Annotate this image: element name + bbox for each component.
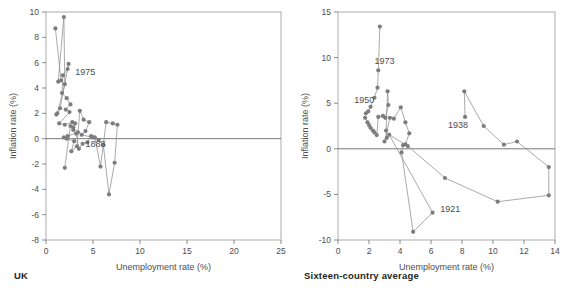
y-tick-label: -4 <box>31 184 39 194</box>
x-tick-label: 8 <box>460 246 465 256</box>
data-point <box>80 133 84 137</box>
data-point <box>66 62 70 66</box>
x-tick-label: 6 <box>429 246 434 256</box>
x-tick-label: 2 <box>367 246 372 256</box>
data-point <box>65 96 69 100</box>
data-point <box>401 143 405 147</box>
data-point <box>107 192 111 196</box>
data-point <box>63 123 67 127</box>
panel-sixteen-country: 02468101214-10-5051015Unemployment rate … <box>290 0 580 293</box>
x-tick-label: 0 <box>44 246 49 256</box>
data-point <box>384 128 388 132</box>
y-tick-label: 10 <box>322 53 332 63</box>
data-point <box>54 113 58 117</box>
data-point <box>81 142 85 146</box>
data-point <box>82 118 86 122</box>
data-point <box>69 149 73 153</box>
data-point <box>68 124 72 128</box>
data-point <box>53 26 57 30</box>
x-tick-label: 15 <box>182 246 192 256</box>
y-tick-label: 4 <box>34 83 39 93</box>
data-point <box>57 121 61 125</box>
data-point <box>388 116 392 120</box>
data-point <box>403 120 407 124</box>
data-point <box>387 133 391 137</box>
y-tick-label: -8 <box>31 235 39 245</box>
data-point <box>78 109 82 113</box>
data-point <box>376 115 380 119</box>
data-point <box>73 121 77 125</box>
point-label-1938: 1938 <box>448 120 468 130</box>
panel-caption-sixteen-country: Sixteen-country average <box>304 270 419 281</box>
data-point <box>77 147 81 151</box>
y-tick-label: 0 <box>326 144 331 154</box>
point-label-1921: 1921 <box>440 204 460 214</box>
data-point <box>364 111 368 115</box>
data-point <box>392 117 396 121</box>
data-point <box>56 80 60 84</box>
data-point <box>113 161 117 165</box>
data-point <box>60 91 64 95</box>
y-tick-label: -5 <box>323 189 331 199</box>
x-tick-label: 14 <box>550 246 560 256</box>
panel-caption-uk: UK <box>14 270 28 281</box>
data-point <box>98 164 102 168</box>
data-point <box>515 139 519 143</box>
data-point <box>376 68 380 72</box>
data-point <box>63 166 67 170</box>
y-tick-label: 8 <box>34 32 39 42</box>
figure-panels: 0510152025-8-6-4-20246810Unemployment ra… <box>0 0 580 293</box>
data-point <box>386 89 390 93</box>
data-point <box>462 89 466 93</box>
data-point <box>496 200 500 204</box>
data-point <box>87 120 91 124</box>
data-point <box>63 82 67 86</box>
data-point <box>115 123 119 127</box>
data-point <box>67 110 71 114</box>
data-point <box>547 193 551 197</box>
y-axis-title: Inflation rate (%) <box>300 93 310 159</box>
data-point <box>111 121 115 125</box>
data-point <box>411 230 415 234</box>
data-point <box>378 24 382 28</box>
x-tick-label: 10 <box>488 246 498 256</box>
x-tick-label: 5 <box>91 246 96 256</box>
data-point <box>406 144 410 148</box>
data-point <box>61 73 65 77</box>
data-point <box>65 137 69 141</box>
x-tick-label: 0 <box>336 246 341 256</box>
point-label-1950: 1950 <box>354 95 374 105</box>
x-axis-title: Unemployment rate (%) <box>116 262 211 272</box>
data-point <box>62 15 66 19</box>
data-point <box>547 165 551 169</box>
data-point <box>72 139 76 143</box>
data-point <box>430 211 434 215</box>
data-point <box>386 103 390 107</box>
point-label-1975: 1975 <box>75 67 95 77</box>
data-point <box>74 132 78 136</box>
data-point <box>443 176 447 180</box>
y-tick-label: 6 <box>34 58 39 68</box>
y-tick-label: 15 <box>322 7 332 17</box>
y-tick-label: 0 <box>34 134 39 144</box>
data-point <box>502 143 506 147</box>
data-point <box>482 124 486 128</box>
data-point <box>89 134 93 138</box>
point-label-1973: 1973 <box>374 56 394 66</box>
y-tick-label: -2 <box>31 159 39 169</box>
y-tick-label: 10 <box>30 7 40 17</box>
data-point <box>64 107 68 111</box>
chart-sixteen-country: 02468101214-10-5051015Unemployment rate … <box>290 0 580 293</box>
data-point <box>399 150 403 154</box>
data-point <box>375 86 379 90</box>
data-point <box>104 120 108 124</box>
x-tick-label: 4 <box>398 246 403 256</box>
data-point <box>66 67 70 71</box>
y-tick-label: -10 <box>319 235 332 245</box>
y-tick-label: 2 <box>34 108 39 118</box>
chart-uk: 0510152025-8-6-4-20246810Unemployment ra… <box>0 0 290 293</box>
data-point <box>399 105 403 109</box>
point-label-1888: 1888 <box>85 139 105 149</box>
data-point <box>83 129 87 133</box>
data-point <box>368 105 372 109</box>
